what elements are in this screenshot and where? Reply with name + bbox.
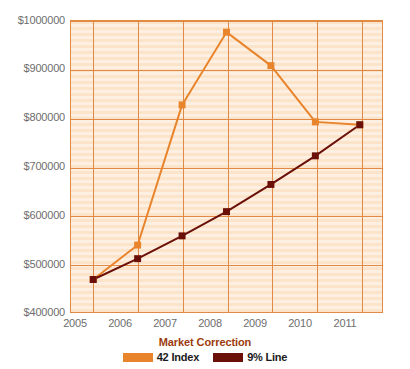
- legend-item-9-percent-line[interactable]: 9% Line: [213, 351, 287, 363]
- data-point-marker[interactable]: [90, 276, 97, 283]
- x-axis-tick-label: 2005: [52, 317, 98, 329]
- plot-area: [70, 20, 383, 313]
- data-point-marker[interactable]: [223, 208, 230, 215]
- chart-legend: 42 Index 9% Line: [0, 351, 410, 363]
- y-axis-tick-label: $1000000: [0, 14, 65, 26]
- data-point-marker[interactable]: [267, 62, 274, 69]
- data-point-marker[interactable]: [134, 255, 141, 262]
- legend-label: 42 Index: [157, 351, 199, 363]
- y-axis-tick-label: $600000: [0, 209, 65, 221]
- series-line-9-line: [93, 125, 360, 280]
- legend-swatch-icon: [123, 353, 153, 362]
- x-axis-tick-label: 2010: [277, 317, 323, 329]
- market-correction-line-chart: $1000000 $900000 $800000 $700000 $600000…: [0, 0, 410, 369]
- x-axis-tick-label: 2009: [232, 317, 278, 329]
- x-axis-tick-label: 2011: [322, 317, 368, 329]
- x-axis-tick-label: 2006: [97, 317, 143, 329]
- data-point-marker[interactable]: [134, 242, 141, 249]
- legend-label: 9% Line: [247, 351, 287, 363]
- data-point-marker[interactable]: [179, 232, 186, 239]
- y-axis-tick-label: $800000: [0, 111, 65, 123]
- y-axis-tick-label: $500000: [0, 258, 65, 270]
- y-axis-tick-label: $900000: [0, 62, 65, 74]
- data-point-marker[interactable]: [223, 29, 230, 36]
- series-line-42-index: [93, 32, 360, 279]
- legend-item-42-index[interactable]: 42 Index: [123, 351, 199, 363]
- x-axis-tick-label: 2008: [187, 317, 233, 329]
- data-point-marker[interactable]: [356, 121, 363, 128]
- legend-swatch-icon: [213, 353, 243, 362]
- y-axis-tick-label: $700000: [0, 160, 65, 172]
- x-axis-tick-label: 2007: [142, 317, 188, 329]
- data-point-marker[interactable]: [179, 101, 186, 108]
- chart-title: Market Correction: [0, 336, 410, 348]
- data-point-marker[interactable]: [267, 181, 274, 188]
- data-point-marker[interactable]: [312, 118, 319, 125]
- data-series-layer: [71, 21, 382, 312]
- data-point-marker[interactable]: [312, 152, 319, 159]
